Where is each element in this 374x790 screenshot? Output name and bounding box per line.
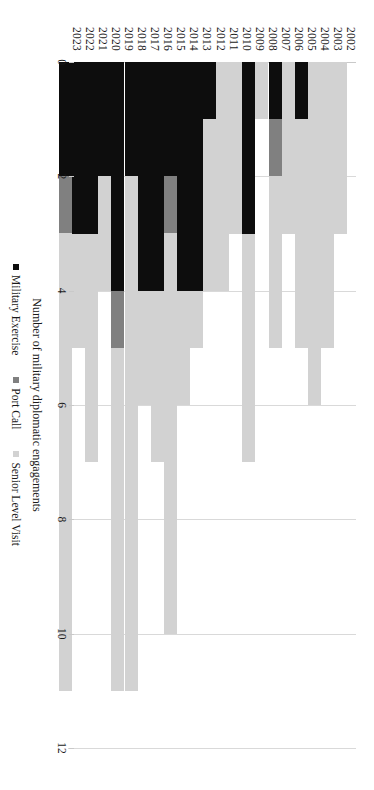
category-label: 2009: [254, 22, 266, 56]
value-tick-mark: [69, 519, 74, 520]
value-tick-mark: [69, 748, 74, 749]
rotated-figure-wrapper: 2002200320042005200620072008200920102011…: [0, 0, 374, 790]
category-label: 2023: [71, 22, 83, 56]
value-axis-title: Number of military diplomatic engagement…: [29, 62, 44, 748]
legend-swatch-icon: [13, 264, 19, 270]
bar-row: [317, 62, 330, 748]
value-tick-label: 2: [56, 173, 68, 179]
category-label: 2020: [110, 22, 122, 56]
value-tick-label: 12: [56, 742, 68, 754]
bar-row: [343, 62, 356, 748]
category-label: 2006: [293, 22, 305, 56]
value-tick-label: 10: [56, 628, 68, 640]
value-tick-label: 8: [56, 516, 68, 522]
category-label: 2021: [97, 22, 109, 56]
bar-row: [277, 62, 290, 748]
legend-item-port[interactable]: Port Call: [10, 377, 22, 429]
category-label: 2003: [332, 22, 344, 56]
legend-swatch-icon: [13, 377, 19, 383]
legend-item-slv[interactable]: Senior Level Visit: [10, 451, 22, 545]
category-label: 2022: [84, 22, 96, 56]
bar-row: [173, 62, 186, 748]
bar-row: [160, 62, 173, 748]
category-label: 2012: [215, 22, 227, 56]
bar-row: [133, 62, 146, 748]
value-axis: 024681012: [46, 62, 68, 748]
chart-figure: 2002200320042005200620072008200920102011…: [0, 0, 374, 790]
value-tick-mark: [69, 634, 74, 635]
category-label: 2008: [267, 22, 279, 56]
value-tick-label: 4: [56, 288, 68, 294]
category-label: 2007: [280, 22, 292, 56]
value-tick-mark: [69, 62, 74, 63]
value-tick-mark: [69, 176, 74, 177]
chart-legend: Military ExercisePort CallSenior Level V…: [10, 62, 22, 748]
bar-rows: [68, 62, 356, 748]
bar-row: [186, 62, 199, 748]
bar-row: [120, 62, 133, 748]
category-label: 2004: [319, 22, 331, 56]
category-label: 2019: [123, 22, 135, 56]
category-label: 2014: [188, 22, 200, 56]
category-label: 2018: [136, 22, 148, 56]
legend-item-mil[interactable]: Military Exercise: [10, 264, 22, 355]
bar-row: [81, 62, 94, 748]
bar-row: [238, 62, 251, 748]
bar-row: [94, 62, 107, 748]
category-label: 2010: [241, 22, 253, 56]
category-label: 2011: [228, 22, 240, 56]
gridline-12: [68, 748, 356, 749]
category-label: 2017: [149, 22, 161, 56]
plot-area: 2002200320042005200620072008200920102011…: [68, 62, 356, 748]
bar-row: [199, 62, 212, 748]
bar-row: [251, 62, 264, 748]
value-tick-mark: [69, 291, 74, 292]
bar-row: [264, 62, 277, 748]
category-label: 2015: [175, 22, 187, 56]
bar-row: [212, 62, 225, 748]
legend-label: Senior Level Visit: [10, 462, 22, 545]
legend-swatch-icon: [13, 451, 19, 457]
bar-row: [330, 62, 343, 748]
bar-row: [107, 62, 120, 748]
bar-row: [291, 62, 304, 748]
category-label: 2002: [345, 22, 357, 56]
legend-label: Port Call: [10, 388, 22, 429]
bar-row: [225, 62, 238, 748]
value-tick-label: 6: [56, 402, 68, 408]
bar-row: [304, 62, 317, 748]
category-label: 2005: [306, 22, 318, 56]
legend-label: Military Exercise: [10, 275, 22, 355]
bar-row: [147, 62, 160, 748]
value-tick-label: 0: [56, 59, 68, 65]
category-label: 2013: [201, 22, 213, 56]
category-label: 2016: [162, 22, 174, 56]
value-tick-mark: [69, 405, 74, 406]
